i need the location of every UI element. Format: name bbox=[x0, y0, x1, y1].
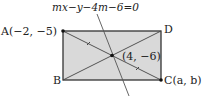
label-b: B bbox=[53, 74, 61, 87]
label-center: (4, −6) bbox=[122, 50, 161, 63]
point-center bbox=[110, 54, 114, 58]
label-d: D bbox=[164, 23, 173, 36]
point-c bbox=[159, 78, 163, 82]
point-a bbox=[61, 29, 65, 33]
rectangle-diagram: mx−y−4m−6=0 A(−2, −5) D B C(a, b) (4, −6… bbox=[0, 0, 209, 101]
label-c: C(a, b) bbox=[164, 74, 202, 87]
equation-label: mx−y−4m−6=0 bbox=[52, 1, 139, 13]
label-a: A(−2, −5) bbox=[0, 25, 57, 38]
